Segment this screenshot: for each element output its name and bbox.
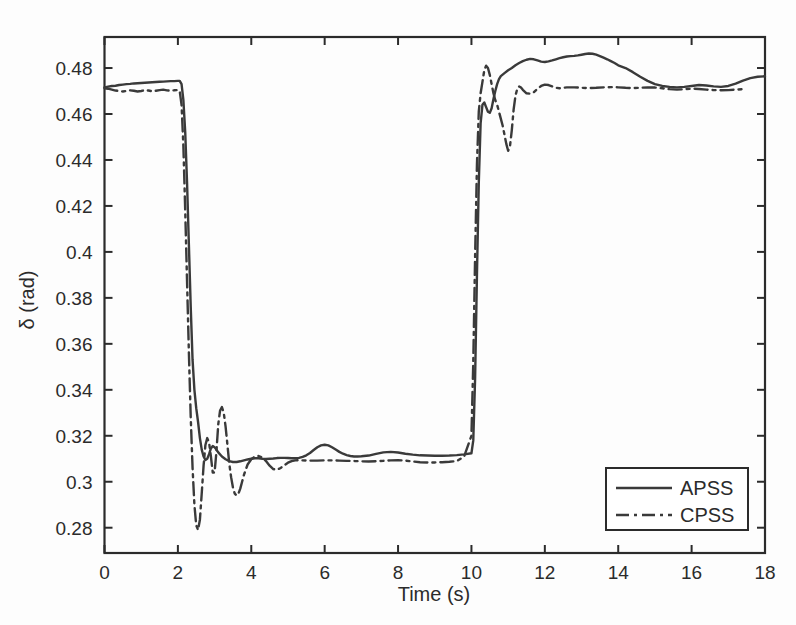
y-tick-label: 0.44	[56, 150, 93, 171]
x-tick-label: 2	[173, 562, 184, 583]
x-tick-label: 16	[681, 562, 702, 583]
x-tick-label: 10	[461, 562, 482, 583]
y-tick-label: 0.46	[56, 104, 93, 125]
y-axis-title: δ (rad)	[16, 271, 38, 330]
y-axis-tick-labels: 0.280.30.320.340.360.380.40.420.440.460.…	[56, 58, 93, 539]
x-axis-title: Time (s)	[398, 583, 471, 605]
y-tick-label: 0.4	[66, 242, 93, 263]
x-tick-label: 0	[99, 562, 110, 583]
legend-label-apss: APSS	[680, 477, 733, 499]
delta-vs-time-chart: 024681012141618 0.280.30.320.340.360.380…	[0, 0, 796, 625]
y-tick-label: 0.32	[56, 426, 93, 447]
x-tick-label: 6	[319, 562, 330, 583]
legend-label-cpss: CPSS	[680, 504, 734, 526]
x-tick-label: 8	[393, 562, 404, 583]
y-tick-label: 0.3	[66, 472, 92, 493]
y-tick-label: 0.36	[56, 334, 93, 355]
y-tick-label: 0.48	[56, 58, 93, 79]
x-tick-label: 18	[754, 562, 775, 583]
y-tick-label: 0.38	[56, 288, 93, 309]
y-axis-title-text: δ (rad)	[16, 271, 38, 330]
series-cpss	[105, 66, 743, 530]
y-tick-label: 0.42	[56, 196, 93, 217]
y-tick-label: 0.28	[56, 518, 93, 539]
x-tick-label: 4	[246, 562, 257, 583]
x-tick-label: 14	[608, 562, 630, 583]
series-apss	[105, 54, 766, 462]
x-tick-label: 12	[534, 562, 555, 583]
y-tick-label: 0.34	[56, 380, 93, 401]
x-axis-tick-labels: 024681012141618	[99, 562, 775, 583]
legend[interactable]: APSSCPSS	[606, 468, 748, 530]
data-series-group	[105, 54, 766, 530]
figure-container: 024681012141618 0.280.30.320.340.360.380…	[0, 0, 796, 625]
